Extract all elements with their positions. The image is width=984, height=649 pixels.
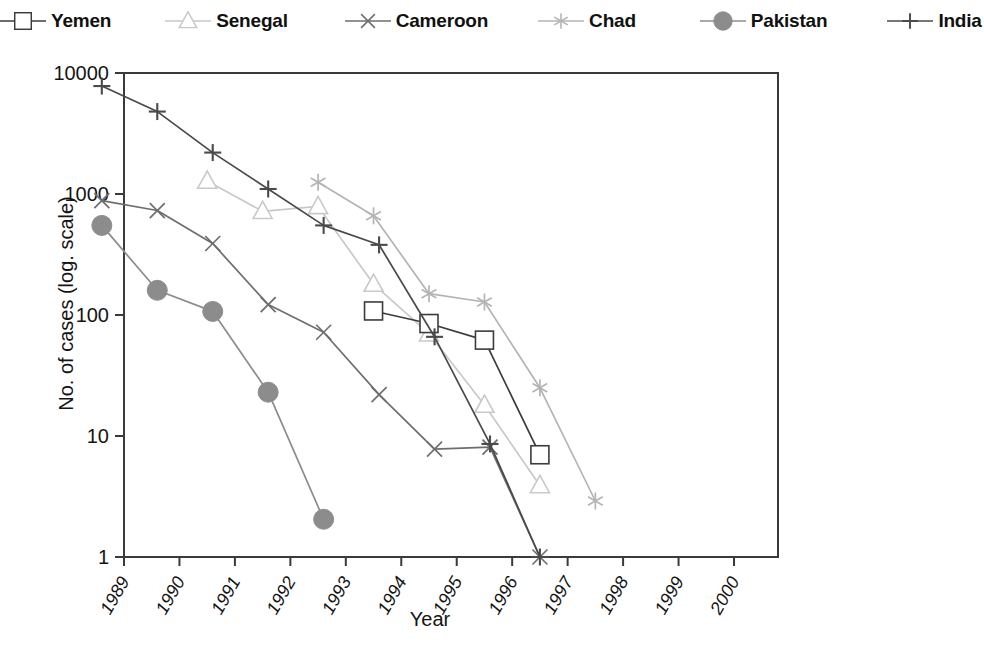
legend-label: Cameroon (391, 10, 490, 32)
y-tick-label: 10 (87, 425, 109, 447)
legend-marker-open-triangle-icon (165, 9, 211, 33)
series-cameroon (94, 193, 547, 564)
x-tick-label: 1999 (651, 573, 688, 618)
legend-item-chad[interactable]: Chad (538, 0, 638, 42)
x-tick-label: 1998 (595, 573, 632, 618)
legend-label: Yemen (46, 10, 113, 32)
legend-item-yemen[interactable]: Yemen (0, 0, 113, 42)
legend-marker-open-square-icon (0, 9, 46, 33)
x-axis-title: Year (300, 608, 560, 631)
series-chad (311, 174, 603, 510)
plot-svg: 1000010001001011989199019911992199319941… (0, 42, 912, 649)
legend-item-pakistan[interactable]: Pakistan (700, 0, 830, 42)
plot-area: 1000010001001011989199019911992199319941… (0, 42, 912, 649)
chart-legend: YemenSenegalCameroonChadPakistanIndia (0, 0, 912, 42)
x-tick-label: 1991 (207, 573, 244, 618)
legend-marker-plus-icon (887, 9, 933, 33)
x-tick-label: 1989 (96, 573, 133, 618)
y-tick-label: 100 (76, 304, 109, 326)
legend-item-cameroon[interactable]: Cameroon (345, 0, 490, 42)
y-tick-label: 1 (98, 546, 109, 568)
legend-label: Pakistan (746, 10, 830, 32)
series-yemen (365, 302, 549, 464)
series-india (93, 78, 548, 566)
legend-item-india[interactable]: India (887, 0, 983, 42)
x-tick-label: 1992 (262, 573, 299, 618)
legend-marker-filled-circle-icon (700, 9, 746, 33)
legend-label: Chad (584, 10, 638, 32)
y-axis-title: No. of cases (log. scale) (55, 154, 78, 454)
legend-marker-asterisk-icon (538, 9, 584, 33)
legend-marker-cross-x-icon (345, 9, 391, 33)
x-tick-label: 2000 (706, 573, 744, 619)
legend-label: India (933, 10, 983, 32)
legend-label: Senegal (211, 10, 289, 32)
legend-item-senegal[interactable]: Senegal (165, 0, 289, 42)
series-pakistan (92, 215, 334, 529)
y-tick-label: 10000 (53, 62, 109, 84)
x-tick-label: 1990 (152, 573, 189, 618)
